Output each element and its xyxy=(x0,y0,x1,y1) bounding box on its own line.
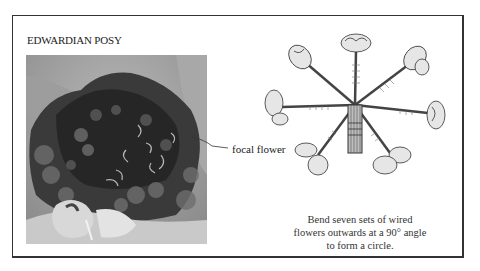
caption-line-2: flowers outwards at a 90° angle xyxy=(285,226,435,239)
caption-line-1: Bend seven sets of wired xyxy=(285,213,435,226)
instruction-caption: Bend seven sets of wired flowers outward… xyxy=(285,213,435,252)
flower-head-top xyxy=(341,34,371,52)
flower-head-right xyxy=(427,101,445,129)
flower-head-upper-right xyxy=(399,42,431,75)
flower-head-lower-right xyxy=(373,147,411,174)
caption-line-3: to form a circle. xyxy=(285,239,435,252)
wired-flowers-diagram xyxy=(250,25,460,185)
